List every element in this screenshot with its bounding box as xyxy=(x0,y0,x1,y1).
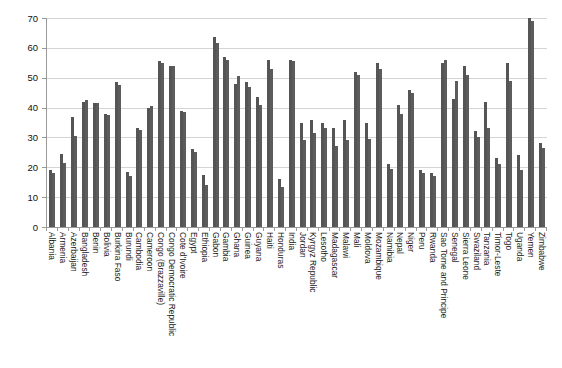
x-axis-label-cell: Congo Democratic Republic xyxy=(166,232,177,352)
bar-group xyxy=(232,18,243,227)
bar-group xyxy=(395,18,406,227)
x-axis-tick-mark xyxy=(89,227,90,231)
x-axis-tick-label: Yemen xyxy=(526,232,534,258)
x-axis-tick-label: Gabon xyxy=(211,232,219,257)
x-axis-tick-mark xyxy=(111,227,112,231)
bar xyxy=(335,146,338,227)
x-axis-label-cell: Egypt xyxy=(187,232,198,352)
x-axis-tick-mark xyxy=(307,227,308,231)
x-axis-tick-label: Cote d'Ivoire xyxy=(178,232,186,279)
bar-group xyxy=(254,18,265,227)
bar xyxy=(400,114,403,227)
bar xyxy=(161,63,164,227)
x-axis-tick-mark xyxy=(176,227,177,231)
x-axis-tick-label: Bolivia xyxy=(102,232,110,257)
x-axis-label-cell: Cote d'Ivoire xyxy=(177,232,188,352)
bar xyxy=(74,136,77,227)
bar-group xyxy=(134,18,145,227)
x-axis-label-cell: Kyrgyz Republic xyxy=(307,232,318,352)
x-axis-tick-mark xyxy=(122,227,123,231)
x-axis-tick-label: India xyxy=(287,232,295,250)
x-axis-label-cell: Zimbabwe xyxy=(535,232,546,352)
bar xyxy=(52,173,55,227)
x-axis-tick-mark xyxy=(231,227,232,231)
x-axis-tick-mark xyxy=(296,227,297,231)
bar xyxy=(96,103,99,227)
bar-group xyxy=(482,18,493,227)
bar-group xyxy=(515,18,526,227)
bar xyxy=(390,169,393,227)
bar-group xyxy=(167,18,178,227)
bar-group xyxy=(91,18,102,227)
bar-group xyxy=(362,18,373,227)
x-axis-tick-mark xyxy=(274,227,275,231)
x-axis-label-cell: Albania xyxy=(46,232,57,352)
x-axis-tick-label: Rwanda xyxy=(428,232,436,263)
bar xyxy=(368,139,371,227)
x-axis-label-cell: Sierra Leone xyxy=(459,232,470,352)
bar xyxy=(118,85,121,227)
x-axis-tick-label: Timor-Leste xyxy=(493,232,501,276)
bar-group xyxy=(265,18,276,227)
bar xyxy=(303,140,306,227)
bar-group xyxy=(58,18,69,227)
x-axis-tick-mark xyxy=(68,227,69,231)
x-axis-tick-label: Albania xyxy=(48,232,56,260)
plot-area xyxy=(46,18,547,228)
x-axis-label-cell: Cameroon xyxy=(144,232,155,352)
bar xyxy=(259,105,262,227)
bar xyxy=(487,128,490,227)
x-axis-label-cell: Togo xyxy=(503,232,514,352)
x-axis-tick-label: Moldova xyxy=(363,232,371,264)
x-axis-tick-mark xyxy=(263,227,264,231)
bar xyxy=(270,69,273,227)
bar-group xyxy=(199,18,210,227)
x-axis-tick-mark xyxy=(187,227,188,231)
bar xyxy=(520,170,523,227)
x-axis-tick-label: Burkina Faso xyxy=(113,232,121,281)
bar-group xyxy=(286,18,297,227)
bar xyxy=(281,187,284,227)
bar-group xyxy=(417,18,428,227)
bar-group xyxy=(504,18,515,227)
x-axis-tick-mark xyxy=(318,227,319,231)
x-axis-tick-label: Egypt xyxy=(189,232,197,253)
bar-group xyxy=(471,18,482,227)
x-axis-tick-mark xyxy=(524,227,525,231)
x-axis-label-cell: Congo (Brazzaville) xyxy=(155,232,166,352)
x-axis-tick-mark xyxy=(361,227,362,231)
bar xyxy=(292,61,295,227)
bar xyxy=(248,87,251,227)
x-axis-tick-mark xyxy=(285,227,286,231)
bar xyxy=(379,69,382,227)
x-axis-label-cell: Azerbaijan xyxy=(68,232,79,352)
x-axis-tick-label: Honduras xyxy=(276,232,284,268)
x-axis-tick-mark xyxy=(416,227,417,231)
bar-group xyxy=(373,18,384,227)
bar-group xyxy=(536,18,547,227)
x-axis-tick-mark xyxy=(535,227,536,231)
x-axis-label-cell: Haiti xyxy=(264,232,275,352)
x-axis-label-cell: Gambia xyxy=(220,232,231,352)
y-axis-tick-label: 50 xyxy=(27,73,38,82)
bar-group xyxy=(493,18,504,227)
bar-group xyxy=(112,18,123,227)
x-axis-tick-mark xyxy=(57,227,58,231)
x-axis-tick-label: Congo Democratic Republic xyxy=(167,232,175,336)
x-axis-labels: AlbaniaArmeniaAzerbaijanBangladeshBeninB… xyxy=(46,232,546,352)
x-axis-label-cell: Rwanda xyxy=(427,232,438,352)
bar xyxy=(411,93,414,227)
bar-group xyxy=(80,18,91,227)
x-axis-label-cell: Honduras xyxy=(274,232,285,352)
x-axis-tick-mark xyxy=(198,227,199,231)
bar-group xyxy=(406,18,417,227)
bar xyxy=(455,81,458,227)
x-axis-tick-mark xyxy=(242,227,243,231)
x-axis-tick-label: Niger xyxy=(406,232,414,252)
y-axis-tick-label: 40 xyxy=(27,103,38,112)
x-axis-tick-label: Bangladesh xyxy=(80,232,88,276)
bar-group xyxy=(330,18,341,227)
bar-group xyxy=(319,18,330,227)
x-axis-label-cell: Guinea xyxy=(242,232,253,352)
x-axis-tick-label: Malawi xyxy=(341,232,349,258)
